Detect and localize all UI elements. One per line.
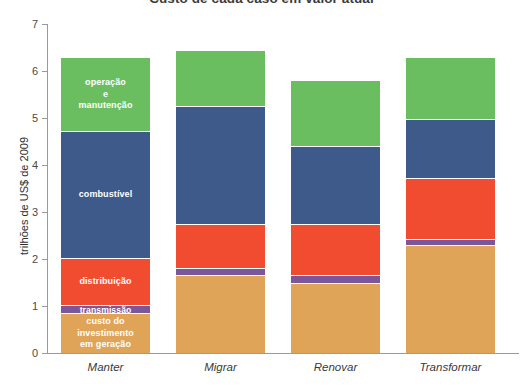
bar-series-container: custo do investimento em geraçãotransmis… [61, 24, 515, 353]
bar-segment-transformar-0[interactable] [406, 245, 495, 353]
bar-segment-migrar-0[interactable] [176, 275, 265, 353]
bar-segment-renovar-2[interactable] [291, 224, 380, 276]
x-label-transformar: Transformar [406, 361, 495, 373]
chart-title: Custo de cada caso em valor atual [0, 0, 523, 6]
bar-segment-manter-4[interactable]: operação e manutenção [61, 57, 150, 131]
y-tick-4 [42, 165, 47, 166]
stacked-bar-chart: Custo de cada caso em valor atual trilhõ… [0, 0, 523, 390]
bar-group-migrar[interactable] [176, 24, 265, 353]
segment-label-2: distribuição [77, 276, 133, 288]
bar-segment-migrar-4[interactable] [176, 50, 265, 106]
y-tick-0 [42, 353, 47, 354]
y-axis-line [47, 24, 48, 353]
bar-segment-migrar-1[interactable] [176, 268, 265, 275]
bar-segment-renovar-3[interactable] [291, 146, 380, 224]
bar-segment-transformar-3[interactable] [406, 119, 495, 178]
y-tick-label-4: 4 [32, 159, 38, 171]
bar-segment-migrar-2[interactable] [176, 224, 265, 269]
y-tick-label-7: 7 [32, 18, 38, 30]
bar-segment-manter-2[interactable]: distribuição [61, 258, 150, 305]
y-tick-1 [42, 306, 47, 307]
y-tick-6 [42, 71, 47, 72]
x-label-renovar: Renovar [291, 361, 380, 373]
bar-segment-migrar-3[interactable] [176, 106, 265, 224]
bar-segment-renovar-0[interactable] [291, 283, 380, 354]
segment-label-0: custo do investimento em geração [75, 316, 136, 351]
y-tick-3 [42, 212, 47, 213]
y-tick-5 [42, 118, 47, 119]
bar-segment-manter-3[interactable]: combustível [61, 131, 150, 258]
segment-label-4: operação e manutenção [76, 77, 134, 112]
bar-segment-renovar-1[interactable] [291, 275, 380, 282]
bar-segment-manter-0[interactable]: custo do investimento em geração [61, 313, 150, 353]
y-axis-title: trilhões de US$ de 2009 [18, 86, 30, 306]
bar-group-renovar[interactable] [291, 24, 380, 353]
segment-label-3: combustível [77, 189, 135, 201]
bar-group-transformar[interactable] [406, 24, 495, 353]
y-tick-label-0: 0 [32, 347, 38, 359]
y-tick-label-6: 6 [32, 65, 38, 77]
plot-area: 01234567 custo do investimento em geraçã… [47, 24, 515, 353]
x-label-manter: Manter [61, 361, 150, 373]
x-label-migrar: Migrar [176, 361, 265, 373]
segment-label-1: transmissão [78, 305, 134, 313]
y-tick-label-3: 3 [32, 206, 38, 218]
y-tick-label-5: 5 [32, 112, 38, 124]
bar-segment-manter-1[interactable]: transmissão [61, 305, 150, 313]
bar-segment-transformar-4[interactable] [406, 57, 495, 120]
y-tick-label-1: 1 [32, 300, 38, 312]
bar-segment-transformar-1[interactable] [406, 239, 495, 245]
bar-segment-renovar-4[interactable] [291, 80, 380, 146]
y-tick-label-2: 2 [32, 253, 38, 265]
bar-segment-transformar-2[interactable] [406, 178, 495, 239]
bar-group-manter[interactable]: custo do investimento em geraçãotransmis… [61, 24, 150, 353]
y-tick-2 [42, 259, 47, 260]
y-tick-7 [42, 24, 47, 25]
